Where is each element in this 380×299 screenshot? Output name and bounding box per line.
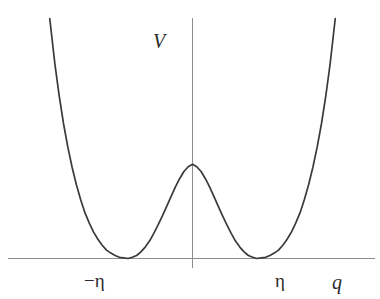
x-axis-label: q [332,272,342,292]
potential-plot-figure: V q −η η [0,0,380,299]
x-tick-label-negative-eta: −η [84,271,105,290]
x-tick-label-positive-eta: η [275,271,285,290]
y-axis-label: V [153,31,165,51]
plot-canvas [0,0,380,299]
